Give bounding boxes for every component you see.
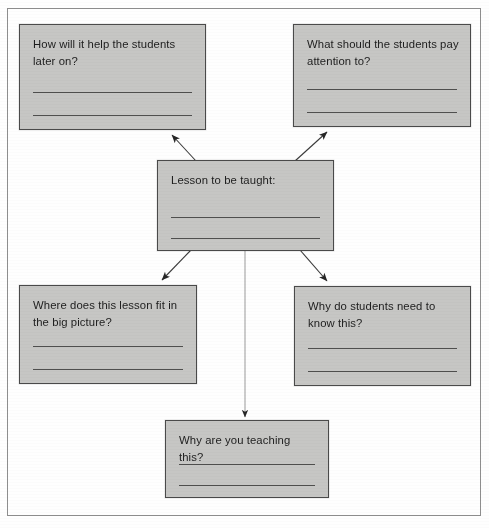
node-where-does-it-fit[interactable]: Where does this lesson fit in the big pi… [19, 285, 197, 384]
answer-lines [171, 217, 320, 239]
answer-line-2[interactable] [179, 485, 315, 486]
node-question-text: What should the students pay attention t… [307, 36, 459, 70]
node-why-do-students-need-it[interactable]: Why do students need to know this? [294, 286, 471, 386]
node-question-text: Why are you teaching this? [179, 432, 317, 466]
answer-line-2[interactable] [33, 115, 192, 116]
node-what-should-they-notice[interactable]: What should the students pay attention t… [293, 24, 471, 127]
node-question-text: How will it help the students later on? [33, 36, 194, 70]
answer-line-1[interactable] [171, 217, 320, 218]
answer-lines [33, 346, 183, 370]
worksheet-page: How will it help the students later on? … [0, 0, 489, 528]
answer-lines [307, 89, 457, 113]
node-how-will-it-help[interactable]: How will it help the students later on? [19, 24, 206, 130]
answer-line-1[interactable] [307, 89, 457, 90]
node-question-text: Where does this lesson fit in the big pi… [33, 297, 185, 331]
answer-line-1[interactable] [308, 348, 457, 349]
node-why-are-you-teaching-it[interactable]: Why are you teaching this? [165, 420, 329, 498]
answer-line-2[interactable] [171, 238, 320, 239]
answer-lines [33, 92, 192, 116]
answer-line-2[interactable] [33, 369, 183, 370]
node-question-text: Why do students need to know this? [308, 298, 459, 332]
answer-line-2[interactable] [308, 371, 457, 372]
answer-line-1[interactable] [33, 346, 183, 347]
answer-line-1[interactable] [179, 464, 315, 465]
node-question-text: Lesson to be taught: [171, 172, 322, 189]
answer-lines [308, 348, 457, 372]
answer-line-1[interactable] [33, 92, 192, 93]
answer-line-2[interactable] [307, 112, 457, 113]
node-lesson-to-be-taught[interactable]: Lesson to be taught: [157, 160, 334, 251]
answer-lines [179, 464, 315, 486]
